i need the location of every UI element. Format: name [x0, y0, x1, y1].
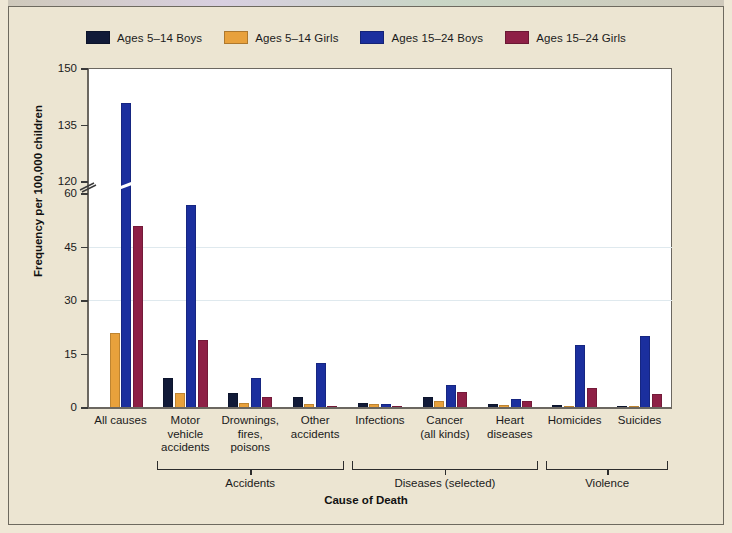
- bar: [110, 333, 120, 408]
- figure-canvas: Ages 5–14 BoysAges 5–14 GirlsAges 15–24 …: [0, 0, 732, 533]
- y-tick-label-135: 135: [58, 119, 77, 131]
- gridline-45: [88, 247, 672, 248]
- y-tick-label-30: 30: [64, 294, 77, 306]
- x-category-label-line: diseases: [471, 428, 548, 442]
- axis-break-icon: [79, 179, 97, 193]
- y-tick-15: [81, 354, 88, 356]
- y-axis-line: [87, 68, 89, 408]
- x-category-label-line: Suicides: [601, 414, 678, 428]
- y-tick-label-120: 120: [58, 175, 77, 187]
- group-label: Violence: [506, 477, 708, 489]
- legend-label-ages_5_14_boys: Ages 5–14 Boys: [117, 32, 202, 44]
- group-bracket: [352, 461, 539, 470]
- y-tick-label-15: 15: [64, 348, 77, 360]
- x-category-label-line: poisons: [212, 441, 289, 455]
- y-tick-label-60: 60: [64, 187, 77, 199]
- group-bracket-tick: [250, 470, 252, 475]
- y-tick-60: [81, 193, 88, 195]
- legend-swatch-ages_15_24_boys: [360, 31, 384, 44]
- bar: [121, 103, 131, 408]
- y-tick-0: [81, 407, 88, 409]
- group-bracket-tick: [607, 470, 609, 475]
- x-category-label: Suicides: [601, 414, 678, 428]
- y-tick-150: [81, 68, 88, 70]
- bar: [652, 394, 662, 408]
- group-bracket: [157, 461, 344, 470]
- bar: [316, 363, 326, 408]
- y-tick-45: [81, 247, 88, 249]
- legend-label-ages_15_24_boys: Ages 15–24 Boys: [391, 32, 483, 44]
- y-tick-label-45: 45: [64, 241, 77, 253]
- legend-swatch-ages_15_24_girls: [505, 31, 529, 44]
- gridline-30: [88, 300, 672, 301]
- legend-swatch-ages_5_14_girls: [224, 31, 248, 44]
- y-tick-135: [81, 125, 88, 127]
- legend-item-ages_15_24_boys: Ages 15–24 Boys: [360, 31, 483, 44]
- x-category-label-line: accidents: [277, 428, 354, 442]
- bar: [228, 393, 238, 408]
- chart-legend: Ages 5–14 BoysAges 5–14 GirlsAges 15–24 …: [86, 31, 626, 44]
- bar: [198, 340, 208, 408]
- bar: [163, 378, 173, 408]
- legend-item-ages_5_14_boys: Ages 5–14 Boys: [86, 31, 202, 44]
- group-bracket: [546, 461, 668, 470]
- x-axis-title: Cause of Death: [0, 494, 732, 506]
- y-tick-label-0: 0: [71, 401, 77, 413]
- bar: [457, 392, 467, 408]
- bar: [640, 336, 650, 408]
- bar: [133, 226, 143, 408]
- bar: [251, 378, 261, 408]
- bar: [446, 385, 456, 408]
- x-axis-line: [88, 407, 672, 409]
- plot-area: [88, 68, 672, 408]
- legend-swatch-ages_5_14_boys: [86, 31, 110, 44]
- group-bracket-tick: [445, 470, 447, 475]
- bar: [575, 345, 585, 408]
- legend-item-ages_5_14_girls: Ages 5–14 Girls: [224, 31, 338, 44]
- bar: [587, 388, 597, 408]
- legend-label-ages_5_14_girls: Ages 5–14 Girls: [255, 32, 338, 44]
- y-tick-30: [81, 300, 88, 302]
- legend-item-ages_15_24_girls: Ages 15–24 Girls: [505, 31, 626, 44]
- y-axis-title: Frequency per 100,000 children: [32, 41, 44, 341]
- bar: [175, 393, 185, 408]
- legend-label-ages_15_24_girls: Ages 15–24 Girls: [536, 32, 626, 44]
- y-tick-label-150: 150: [58, 62, 77, 74]
- bar: [186, 205, 196, 408]
